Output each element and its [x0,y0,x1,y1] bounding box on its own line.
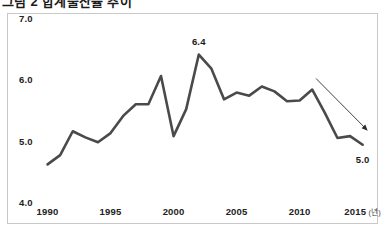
downtrend-arrow-group [316,78,368,130]
x-tick-2015: 2015 (년) [344,206,381,217]
peak-value-label: 6.4 [192,36,206,47]
chart-card: 7.06.05.04.0 199019952000200520102015 (년… [7,13,378,224]
y-tick-7-0: 7.0 [19,13,33,24]
y-tick-6-0: 6.0 [19,74,33,85]
figure-title: 그림 2 합계출산율 추이 [2,0,132,9]
x-tick-2005: 2005 [226,206,248,217]
downtrend-arrow-shaft [316,78,365,127]
x-tick-2000: 2000 [163,206,185,217]
x-tick-1995: 1995 [100,206,122,217]
y-tick-4-0: 4.0 [19,197,33,208]
end-value-label: 5.0 [356,154,370,165]
x-axis-unit-label: (년) [366,208,381,217]
y-tick-5-0: 5.0 [19,136,33,147]
series-line-total-fertility [48,55,363,165]
x-tick-2010: 2010 [289,206,311,217]
x-tick-1990: 1990 [37,206,59,217]
figure-title-strip: 그림 2 합계출산율 추이 [0,0,385,9]
